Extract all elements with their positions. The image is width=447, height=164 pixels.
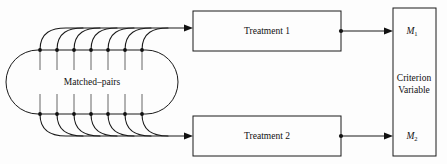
matched-pairs-diagram: Matched–pairs [0, 0, 447, 164]
assignment-curves-top [40, 25, 193, 51]
diagram-canvas: Matched–pairs [0, 0, 447, 164]
arrow-treatment-1-to-criterion [339, 28, 393, 35]
matched-pairs-label: Matched–pairs [64, 77, 121, 87]
treatment-1-label: Treatment 1 [244, 26, 290, 36]
measure-1-label: M1 [405, 26, 417, 37]
matched-pairs-group: Matched–pairs [6, 50, 178, 114]
pair-ticks-top [40, 50, 142, 70]
criterion-variable-box[interactable]: M1 Criterion Variable M2 [393, 8, 436, 156]
arrowhead-to-treatment-1 [184, 25, 193, 32]
treatment-2-label: Treatment 2 [244, 131, 290, 141]
arrowhead-to-treatment-2 [184, 133, 193, 140]
measure-1-subscript: 1 [414, 30, 417, 37]
measure-2-label: M2 [405, 131, 417, 142]
criterion-label-line-2: Variable [398, 85, 430, 95]
treatment-2-box[interactable]: Treatment 2 [193, 116, 341, 156]
criterion-label-line-1: Criterion [397, 73, 432, 83]
treatment-1-box[interactable]: Treatment 1 [193, 11, 341, 51]
pair-ticks-bottom [40, 94, 142, 114]
assignment-curves-bottom [40, 114, 193, 140]
measure-2-subscript: 2 [414, 135, 417, 142]
arrow-treatment-2-to-criterion [339, 133, 393, 140]
